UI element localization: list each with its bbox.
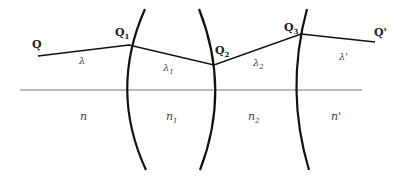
point-label-q1: Q1 <box>115 26 130 41</box>
refraction-diagram: QQ1Q2Q3Q' λλ1λ2λ' nn1n2n' <box>0 0 399 177</box>
medium-label-3: n' <box>331 110 341 123</box>
wavelength-label-0: λ <box>78 55 85 66</box>
point-label-q3: Q3 <box>284 21 299 36</box>
light-ray <box>38 34 375 65</box>
point-label-q2: Q2 <box>215 44 230 59</box>
point-label-q: Q <box>32 38 42 51</box>
medium-labels: nn1n2n' <box>80 110 341 125</box>
point-label-qprime: Q' <box>374 26 387 39</box>
wavelength-label-1: λ1 <box>162 62 174 76</box>
medium-label-1: n1 <box>166 110 178 125</box>
wavelength-label-3: λ' <box>338 51 348 62</box>
wavelength-label-2: λ2 <box>252 57 264 71</box>
medium-label-0: n <box>80 110 87 123</box>
medium-label-2: n2 <box>248 110 260 125</box>
